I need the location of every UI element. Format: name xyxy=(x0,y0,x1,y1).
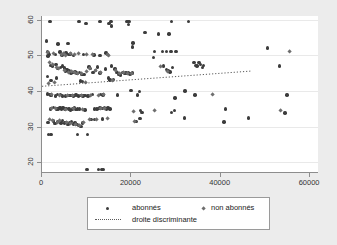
x-tick-label-40000: 40000 xyxy=(195,178,245,187)
discriminant-line xyxy=(42,16,318,172)
y-tick-label-20: 20 xyxy=(0,157,34,166)
x-tick-60000 xyxy=(309,173,310,177)
x-tick-20000 xyxy=(130,173,131,177)
y-tick-label-30: 30 xyxy=(0,122,34,131)
y-tick-60 xyxy=(37,20,41,21)
legend-marker-droite-discriminante xyxy=(95,219,121,220)
y-tick-50 xyxy=(37,55,41,56)
legend-label-abonnes: abonnés xyxy=(132,203,161,212)
plot-area xyxy=(42,16,318,172)
x-tick-0 xyxy=(41,173,42,177)
legend-label-non-abonnes: non abonnés xyxy=(211,203,254,212)
legend-marker-abonnes xyxy=(106,207,109,210)
legend-label-droite-discriminante: droite discriminante xyxy=(132,215,197,224)
y-tick-label-60: 60 xyxy=(0,15,34,24)
scatter-plot-figure: 0200004000060000 2030405060 abonnés non … xyxy=(0,0,337,245)
x-tick-label-0: 0 xyxy=(16,178,66,187)
plot-panel xyxy=(41,16,318,173)
x-tick-label-20000: 20000 xyxy=(105,178,155,187)
y-tick-label-40: 40 xyxy=(0,86,34,95)
y-tick-label-50: 50 xyxy=(0,50,34,59)
x-tick-label-60000: 60000 xyxy=(284,178,334,187)
y-tick-40 xyxy=(37,91,41,92)
legend-marker-non-abonnes xyxy=(201,206,206,211)
x-tick-40000 xyxy=(220,173,221,177)
chart-legend: abonnés non abonnés droite discriminante xyxy=(87,197,270,230)
y-tick-20 xyxy=(37,162,41,163)
y-tick-30 xyxy=(37,127,41,128)
